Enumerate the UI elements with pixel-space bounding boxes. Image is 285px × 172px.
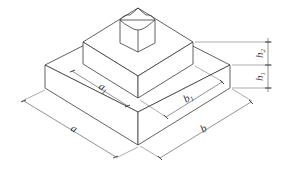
label-h1: h1 [253,72,267,81]
label-b: b [198,121,209,134]
label-a: a [69,122,80,135]
foundation-diagram: a1 b1 a b h2 h1 [0,0,285,172]
label-h2: h2 [253,49,267,59]
